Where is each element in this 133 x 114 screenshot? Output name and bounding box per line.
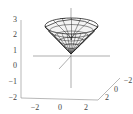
x-tick-0: 0 bbox=[58, 103, 62, 112]
y-tick-2: 2 bbox=[105, 93, 109, 102]
y-tick-0: 0 bbox=[114, 85, 118, 94]
z-tick-0: 0 bbox=[13, 61, 17, 70]
z-tick-neg2: −2 bbox=[8, 93, 17, 102]
z-tick-2: 2 bbox=[13, 30, 17, 39]
z-tick-1: 1 bbox=[13, 46, 17, 55]
x-axis-line bbox=[21, 98, 98, 100]
z-tick-3: 3 bbox=[13, 15, 17, 24]
cone-surface bbox=[45, 18, 98, 54]
depth-axis bbox=[59, 56, 71, 69]
x-tick-neg2: −2 bbox=[31, 103, 40, 112]
x-tick-2: 2 bbox=[84, 103, 88, 112]
x-tick-labels: −2 0 2 bbox=[31, 103, 88, 112]
cone-3d-plot: 3 2 1 0 −1 −2 −2 0 2 −2 0 2 bbox=[0, 0, 133, 114]
y-tick-neg2: −2 bbox=[124, 76, 133, 85]
z-tick-labels: 3 2 1 0 −1 −2 bbox=[8, 15, 17, 102]
z-tick-neg1: −1 bbox=[8, 77, 17, 86]
